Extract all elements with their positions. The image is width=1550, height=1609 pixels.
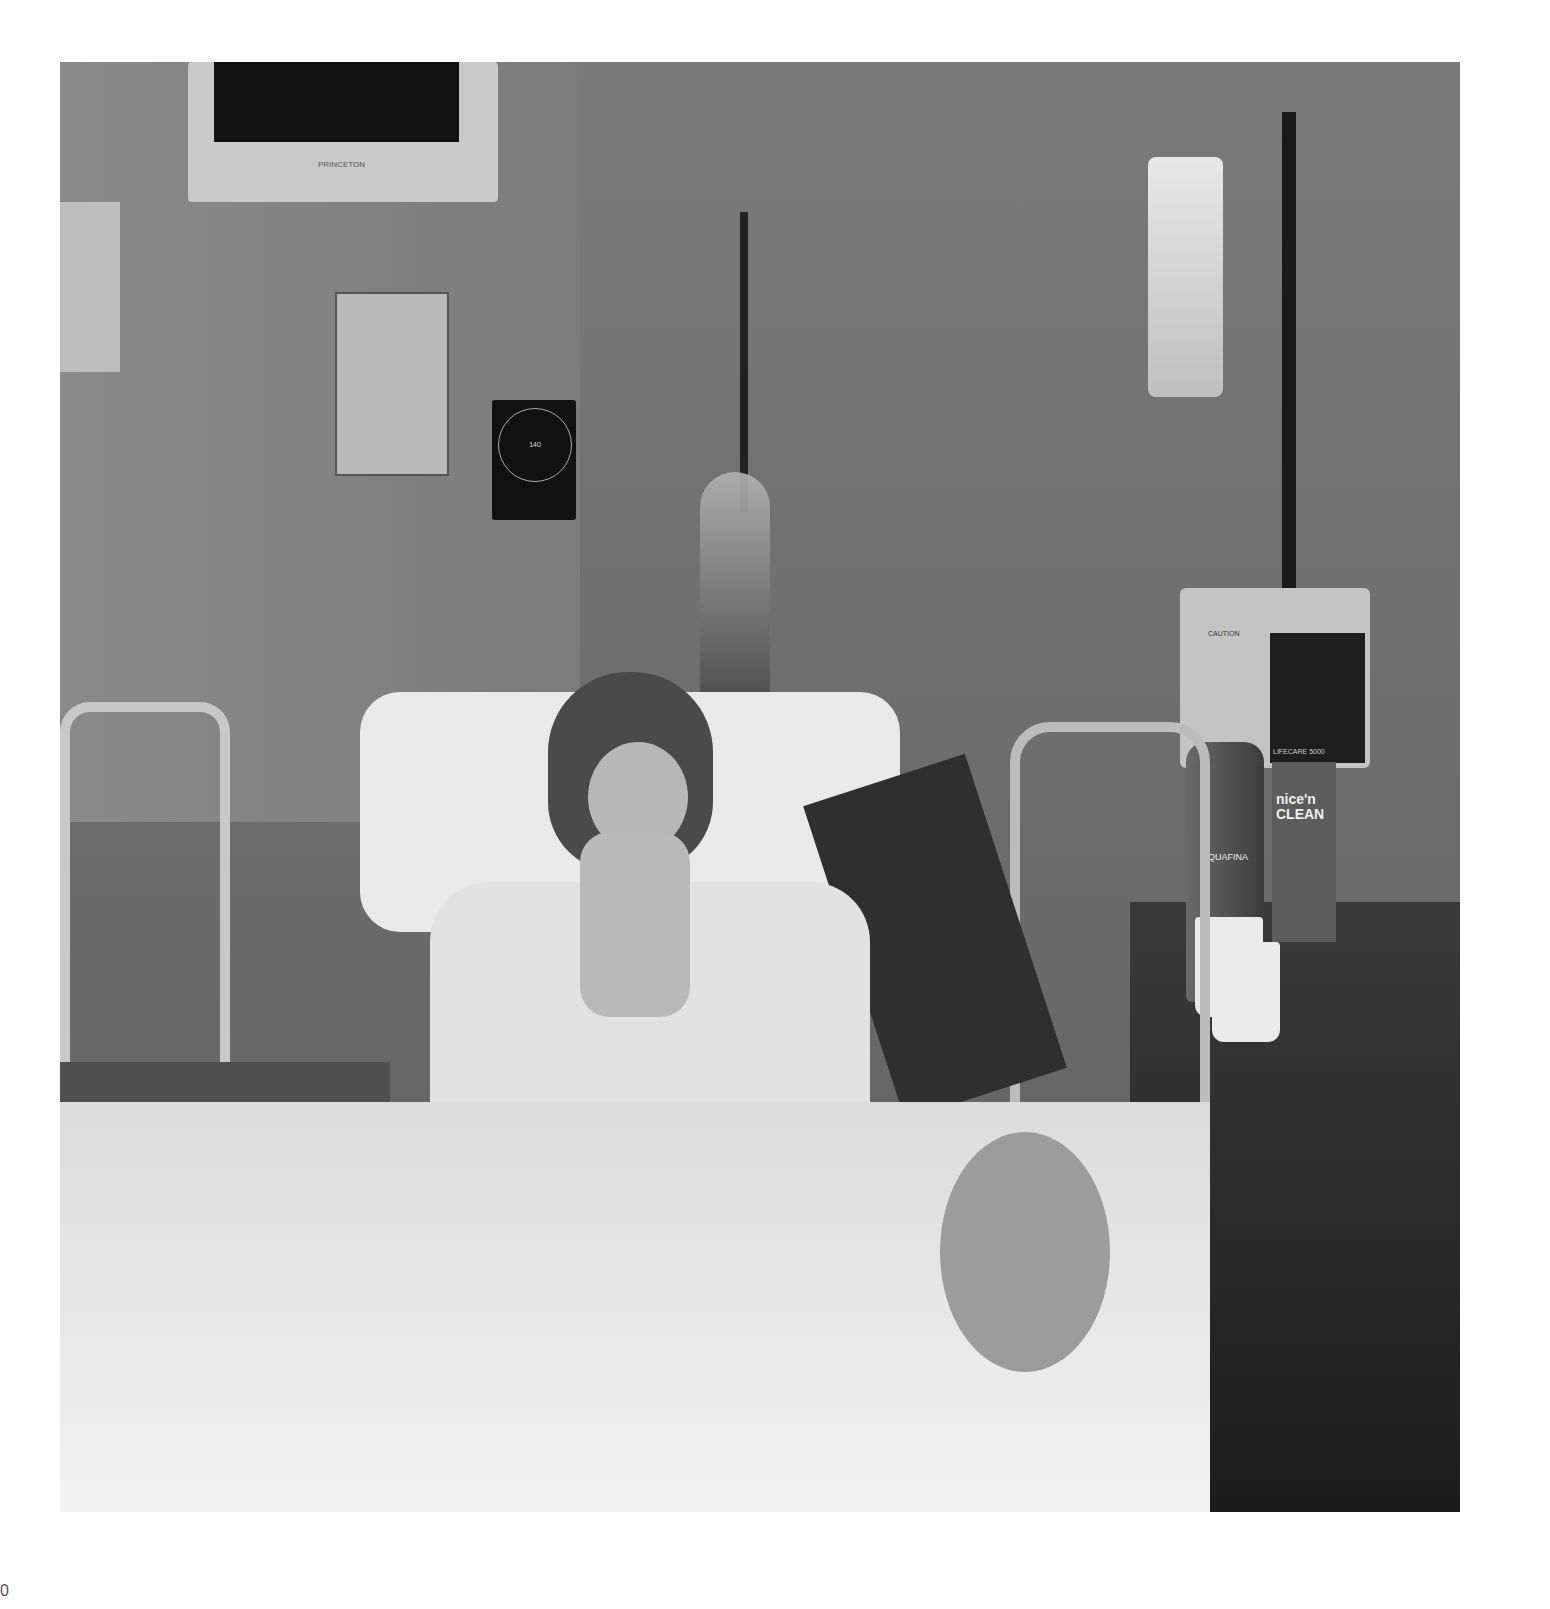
iv-bag: [1148, 157, 1223, 397]
page-number: 0: [0, 1582, 9, 1600]
iv-pole-center: [740, 212, 748, 512]
monitor-screen: [214, 62, 459, 142]
pump-caution-label: CAUTION: [1208, 630, 1240, 637]
wall-equipment-shelf: [60, 202, 120, 372]
wipes-brand: nice'n CLEAN: [1276, 792, 1324, 822]
wipes-brand-line2: CLEAN: [1276, 806, 1324, 822]
blood-pressure-gauge: 140: [492, 400, 576, 520]
wipes-box: nice'n CLEAN: [1272, 762, 1336, 942]
hanging-bag: [700, 472, 770, 702]
gauge-dial: 140: [498, 408, 572, 482]
vitals-monitor: [335, 292, 449, 476]
ceiling-monitor: PRINCETON: [188, 62, 498, 202]
infusion-pump: CAUTION LIFECARE 5000: [1180, 588, 1370, 768]
pump-model-label: LIFECARE 5000: [1273, 748, 1325, 755]
photograph: PRINCETON 140 CAUTION LIFECARE 5000 AQUA…: [60, 62, 1460, 1512]
wipes-brand-line1: nice'n: [1276, 791, 1316, 807]
rebreather-bag: [580, 832, 690, 1017]
foam-cup: [1212, 942, 1280, 1042]
pump-display: [1270, 633, 1365, 763]
patient-leg: [940, 1132, 1110, 1372]
monitor-brand: PRINCETON: [318, 160, 365, 169]
